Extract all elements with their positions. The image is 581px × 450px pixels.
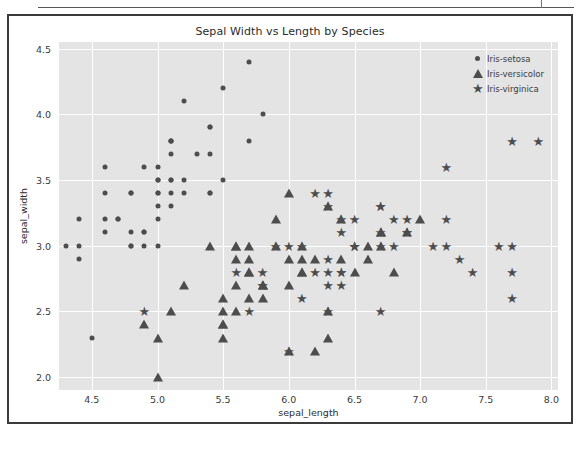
data-point-iris-versicolor bbox=[363, 241, 373, 250]
data-point-iris-virginica: ★ bbox=[270, 241, 282, 250]
x-tick-label-8.0: 8.0 bbox=[544, 394, 559, 405]
data-point-iris-virginica: ★ bbox=[309, 267, 321, 276]
data-point-iris-virginica: ★ bbox=[283, 241, 295, 250]
data-point-iris-versicolor bbox=[139, 320, 149, 329]
legend-item-label: Iris-versicolor bbox=[487, 69, 544, 79]
top-divider-rule bbox=[38, 7, 574, 8]
data-point-iris-versicolor bbox=[297, 254, 307, 263]
data-point-iris-versicolor bbox=[166, 307, 176, 316]
grid-line-vertical-3 bbox=[289, 42, 290, 390]
data-point-iris-virginica: ★ bbox=[322, 189, 334, 198]
legend-item-iris-versicolor[interactable]: Iris-versicolor bbox=[469, 67, 544, 80]
data-point-iris-setosa bbox=[208, 125, 213, 130]
data-point-iris-versicolor bbox=[218, 320, 228, 329]
x-axis-title: sepal_length bbox=[59, 407, 558, 418]
data-point-iris-setosa bbox=[208, 151, 213, 156]
data-point-iris-virginica: ★ bbox=[335, 228, 347, 237]
x-tick-label-4.5: 4.5 bbox=[84, 394, 99, 405]
data-point-iris-setosa bbox=[181, 99, 186, 104]
data-point-iris-virginica: ★ bbox=[322, 280, 334, 289]
data-point-iris-virginica: ★ bbox=[349, 241, 361, 250]
data-point-iris-virginica: ★ bbox=[493, 241, 505, 250]
data-point-iris-versicolor bbox=[310, 254, 320, 263]
data-point-iris-versicolor bbox=[153, 372, 163, 381]
data-point-iris-virginica: ★ bbox=[322, 267, 334, 276]
data-point-iris-versicolor bbox=[244, 254, 254, 263]
data-point-iris-virginica: ★ bbox=[296, 241, 308, 250]
data-point-iris-setosa bbox=[260, 112, 265, 117]
data-point-iris-versicolor bbox=[231, 280, 241, 289]
data-point-iris-virginica: ★ bbox=[244, 307, 256, 316]
data-point-iris-versicolor bbox=[284, 189, 294, 198]
data-point-iris-virginica: ★ bbox=[322, 254, 334, 263]
legend-item-label: Iris-virginica bbox=[487, 84, 539, 94]
data-point-iris-setosa bbox=[155, 177, 160, 182]
data-point-iris-setosa bbox=[168, 204, 173, 209]
data-point-iris-virginica: ★ bbox=[322, 307, 334, 316]
data-point-iris-versicolor bbox=[179, 280, 189, 289]
data-point-iris-versicolor bbox=[336, 254, 346, 263]
chart-legend: Iris-setosaIris-versicolor★Iris-virginic… bbox=[465, 48, 550, 101]
data-point-iris-virginica: ★ bbox=[375, 307, 387, 316]
triangle-icon bbox=[469, 69, 487, 78]
data-point-iris-setosa bbox=[103, 217, 108, 222]
data-point-iris-virginica: ★ bbox=[139, 307, 151, 316]
grid-line-horizontal-4 bbox=[59, 114, 558, 115]
y-axis-tick-labels: 2.02.53.03.54.04.5 bbox=[9, 42, 55, 390]
data-point-iris-virginica: ★ bbox=[322, 202, 334, 211]
data-point-iris-virginica: ★ bbox=[349, 215, 361, 224]
data-point-iris-virginica: ★ bbox=[441, 215, 453, 224]
data-point-iris-setosa bbox=[142, 243, 147, 248]
data-point-iris-setosa bbox=[221, 177, 226, 182]
y-tick-label-4.5: 4.5 bbox=[36, 43, 51, 54]
data-point-iris-versicolor bbox=[297, 267, 307, 276]
data-point-iris-setosa bbox=[103, 230, 108, 235]
x-tick-label-7.0: 7.0 bbox=[413, 394, 428, 405]
data-point-iris-virginica: ★ bbox=[230, 267, 242, 276]
x-tick-label-6.5: 6.5 bbox=[347, 394, 362, 405]
data-point-iris-setosa bbox=[76, 217, 81, 222]
data-point-iris-setosa bbox=[76, 256, 81, 261]
data-point-iris-setosa bbox=[142, 230, 147, 235]
data-point-iris-versicolor bbox=[323, 333, 333, 342]
data-point-iris-versicolor bbox=[310, 346, 320, 355]
data-point-iris-setosa bbox=[129, 243, 134, 248]
chart-figure: Sepal Width vs Length by Species sepal_w… bbox=[9, 16, 571, 422]
data-point-iris-setosa bbox=[155, 191, 160, 196]
data-point-iris-virginica: ★ bbox=[388, 241, 400, 250]
grid-line-horizontal-1 bbox=[59, 311, 558, 312]
data-point-iris-virginica: ★ bbox=[375, 241, 387, 250]
data-point-iris-setosa bbox=[155, 204, 160, 209]
data-point-iris-setosa bbox=[129, 230, 134, 235]
legend-entries: Iris-setosaIris-versicolor★Iris-virginic… bbox=[469, 52, 544, 95]
data-point-iris-versicolor bbox=[284, 254, 294, 263]
chart-title: Sepal Width vs Length by Species bbox=[9, 25, 571, 38]
data-point-iris-versicolor bbox=[153, 333, 163, 342]
legend-item-iris-virginica[interactable]: ★Iris-virginica bbox=[469, 82, 544, 95]
legend-item-iris-setosa[interactable]: Iris-setosa bbox=[469, 52, 544, 65]
data-point-iris-setosa bbox=[142, 164, 147, 169]
data-point-iris-versicolor bbox=[205, 241, 215, 250]
data-point-iris-setosa bbox=[103, 191, 108, 196]
data-point-iris-versicolor bbox=[350, 267, 360, 276]
y-tick-label-4.0: 4.0 bbox=[36, 109, 51, 120]
data-point-iris-virginica: ★ bbox=[401, 228, 413, 237]
data-point-iris-versicolor bbox=[218, 294, 228, 303]
data-point-iris-versicolor bbox=[244, 241, 254, 250]
data-point-iris-virginica: ★ bbox=[506, 267, 518, 276]
data-point-iris-virginica: ★ bbox=[441, 162, 453, 171]
data-point-iris-setosa bbox=[208, 191, 213, 196]
x-tick-label-5.0: 5.0 bbox=[150, 394, 165, 405]
data-point-iris-virginica: ★ bbox=[454, 254, 466, 263]
data-point-iris-virginica: ★ bbox=[427, 241, 439, 250]
data-point-iris-versicolor bbox=[389, 267, 399, 276]
data-point-iris-virginica: ★ bbox=[257, 280, 269, 289]
data-point-iris-setosa bbox=[168, 191, 173, 196]
data-point-iris-setosa bbox=[168, 138, 173, 143]
legend-item-label: Iris-setosa bbox=[487, 54, 531, 64]
y-tick-label-2.5: 2.5 bbox=[36, 306, 51, 317]
data-point-iris-setosa bbox=[168, 177, 173, 182]
data-point-iris-virginica: ★ bbox=[335, 267, 347, 276]
star-icon: ★ bbox=[469, 84, 487, 93]
data-point-iris-versicolor bbox=[231, 254, 241, 263]
